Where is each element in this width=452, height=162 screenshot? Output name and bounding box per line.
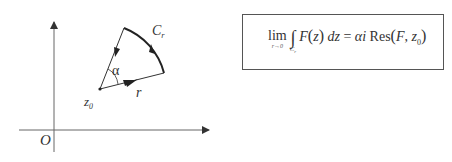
formula-box: lim r→0 ∫ Cr F(z) dz = αi Res(F, z0)	[242, 14, 444, 70]
angle-label: α	[112, 64, 119, 78]
center-point	[98, 87, 101, 90]
limit-formula: lim r→0 ∫ Cr F(z) dz = αi Res(F, z0)	[268, 29, 426, 61]
diagram-canvas	[0, 0, 230, 162]
radius-segment-upper	[100, 28, 124, 89]
integral-sign: ∫	[291, 28, 296, 46]
arrowhead-upper-icon	[114, 47, 120, 57]
arc-label: Cr	[152, 24, 165, 40]
radius-label: r	[136, 86, 141, 100]
lim-text: lim	[268, 29, 287, 43]
integral-operator: ∫ Cr	[290, 29, 297, 56]
origin-label: O	[40, 133, 51, 148]
center-label: z0	[84, 95, 93, 111]
limit-operator: lim r→0	[268, 29, 287, 50]
formula-expression: F(z) dz = αi Res(F, z0)	[299, 29, 426, 50]
sector-contour-diagram: Cr α r z0 O	[0, 0, 230, 162]
lim-subscript: r→0	[272, 43, 283, 50]
